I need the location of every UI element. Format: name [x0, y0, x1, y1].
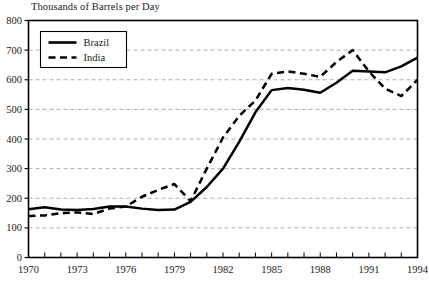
x-tick-label-1985: 1985: [261, 264, 282, 275]
x-tick-label-1988: 1988: [310, 264, 331, 275]
x-tick-label-1991: 1991: [358, 264, 379, 275]
chart-container: Thousands of Barrels per Day 01002003004…: [0, 0, 429, 286]
legend-label-brazil: Brazil: [84, 37, 110, 48]
series-line-india: [29, 50, 418, 216]
x-tick-label-1994: 1994: [407, 264, 429, 275]
x-tick-label-1982: 1982: [213, 264, 234, 275]
x-tick-label-1970: 1970: [18, 264, 39, 275]
x-tick-label-1979: 1979: [164, 264, 185, 275]
y-tick-label-400: 400: [6, 134, 22, 145]
y-tick-label-300: 300: [6, 163, 22, 174]
y-tick-label-800: 800: [6, 15, 22, 26]
y-axis-tick-labels-group: 0100200300400500600700800: [6, 15, 22, 263]
y-tick-label-200: 200: [6, 193, 22, 204]
data-series-group: [29, 50, 418, 216]
x-tick-label-1973: 1973: [67, 264, 88, 275]
legend-label-india: India: [84, 52, 106, 63]
line-chart-plot: 0100200300400500600700800 19701973197619…: [0, 0, 429, 286]
y-tick-label-0: 0: [17, 252, 22, 263]
x-axis-tick-labels-group: 197019731976197919821985198819911994: [18, 264, 429, 275]
series-line-brazil: [29, 58, 418, 211]
y-tick-label-500: 500: [6, 104, 22, 115]
y-tick-label-700: 700: [6, 45, 22, 56]
chart-legend: BrazilIndia: [41, 32, 127, 68]
x-tick-label-1976: 1976: [115, 264, 136, 275]
y-tick-label-600: 600: [6, 74, 22, 85]
y-tick-label-100: 100: [6, 222, 22, 233]
